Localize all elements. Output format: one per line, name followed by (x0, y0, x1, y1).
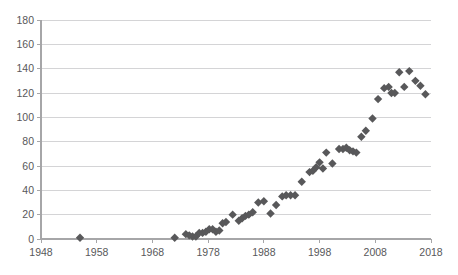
x-axis: 19481958196819781988199820082018 (29, 239, 443, 258)
scatter-chart: 020406080100120140160180 194819581968197… (0, 0, 458, 275)
y-tick-label: 0 (28, 233, 34, 245)
data-point-marker (405, 67, 413, 75)
x-tick-label: 1968 (141, 246, 165, 258)
y-axis: 020406080100120140160180 (16, 14, 41, 245)
data-point-marker (368, 114, 376, 122)
data-point-marker (374, 95, 382, 103)
x-tick-label: 1958 (85, 246, 109, 258)
x-tick-label: 2018 (419, 246, 443, 258)
x-tick-label: 1978 (196, 246, 220, 258)
y-tick-label: 120 (16, 87, 34, 99)
x-tick-label: 2008 (364, 246, 388, 258)
x-tick-label: 1988 (252, 246, 276, 258)
data-point-marker (322, 148, 330, 156)
y-tick-label: 160 (16, 38, 34, 50)
y-tick-label: 140 (16, 62, 34, 74)
y-tick-label: 100 (16, 111, 34, 123)
data-point-marker (400, 83, 408, 91)
y-tick-label: 60 (22, 160, 34, 172)
data-point-marker (228, 210, 236, 218)
data-point-marker (421, 90, 429, 98)
x-tick-label: 1948 (29, 246, 53, 258)
data-point-marker (272, 201, 280, 209)
data-point-marker (328, 159, 336, 167)
data-point-marker (291, 191, 299, 199)
data-point-marker (266, 209, 274, 217)
data-point-marker (298, 178, 306, 186)
y-tick-label: 80 (22, 135, 34, 147)
data-point-marker (395, 68, 403, 76)
data-point-marker (260, 197, 268, 205)
x-tick-label: 1998 (308, 246, 332, 258)
data-point-marker (357, 133, 365, 141)
plot-area: 020406080100120140160180 194819581968197… (0, 0, 458, 275)
data-point-marker (171, 234, 179, 242)
y-tick-label: 20 (22, 208, 34, 220)
data-point-marker (362, 127, 370, 135)
y-tick-label: 180 (16, 14, 34, 26)
data-point-marker (76, 234, 84, 242)
y-tick-label: 40 (22, 184, 34, 196)
